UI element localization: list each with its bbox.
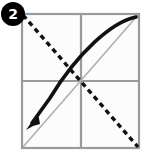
fold-diagram <box>0 0 150 153</box>
step-number-badge: 2 <box>1 2 25 26</box>
step-number-label: 2 <box>8 7 18 21</box>
origami-step-figure: 2 <box>0 0 150 153</box>
